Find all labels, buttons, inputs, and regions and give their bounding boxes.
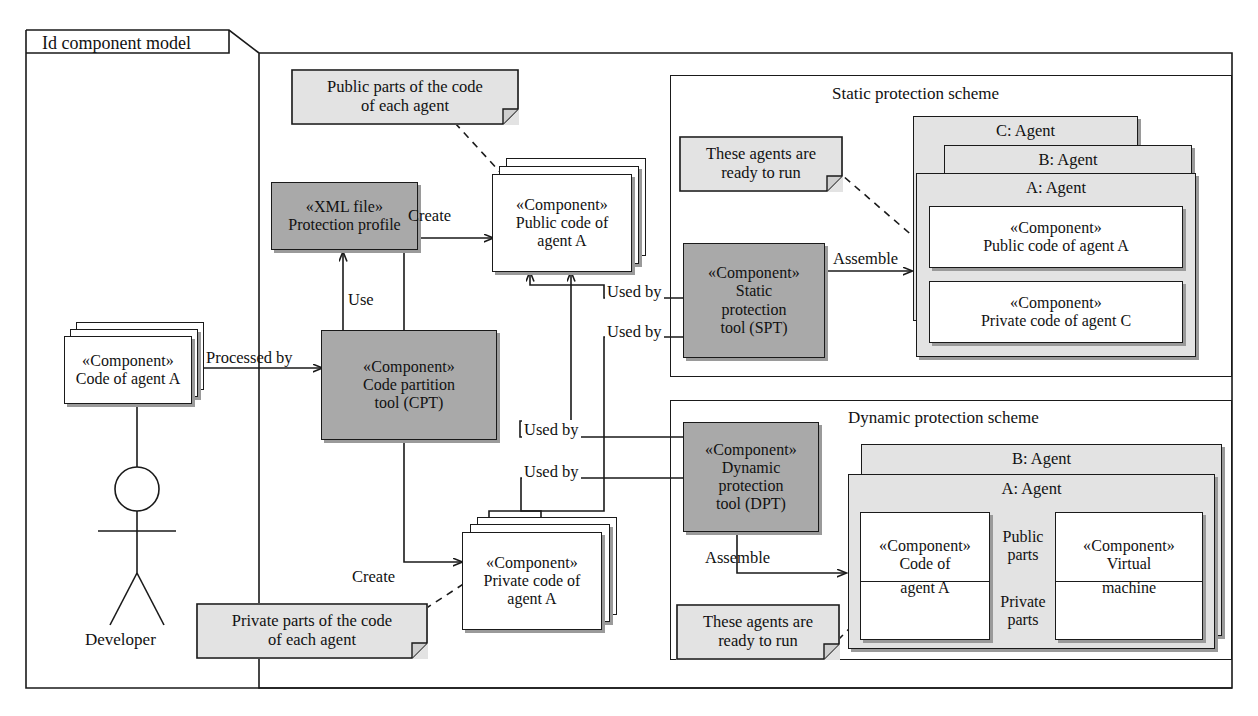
component-stereotype: «Component» <box>486 554 578 572</box>
dynamic-agent-b-label: B: Agent <box>862 449 1221 469</box>
component-name: Private code of agent C <box>981 312 1131 330</box>
component-static-public-code-of-agent-a[interactable]: «Component» Public code of agent A <box>929 206 1183 268</box>
port-private-parts-line-1: Private <box>990 593 1056 611</box>
port-private-parts: Private parts <box>990 593 1056 628</box>
note-line-1: Public parts of the code <box>327 77 483 96</box>
edge-label-used-by-4: Used by <box>522 462 581 482</box>
port-private-parts-line-2: parts <box>990 611 1056 629</box>
frame-dynamic-title: Dynamic protection scheme <box>848 408 1039 428</box>
dynamic-agent-a-label: A: Agent <box>849 479 1214 499</box>
dyn-code-divider <box>861 581 989 582</box>
component-stereotype: «Component» <box>363 358 455 376</box>
component-stereotype: «Component» <box>1010 219 1102 237</box>
edge-label-assemble-static: Assemble <box>833 249 898 269</box>
component-name-line-1: Code partition <box>363 376 455 394</box>
component-stereotype: «Component» <box>705 441 797 459</box>
component-code-of-agent-a[interactable]: «Component» Code of agent A <box>64 336 192 404</box>
port-public-parts-line-1: Public <box>992 528 1054 546</box>
component-name-line-1: Code of <box>899 555 950 573</box>
dyn-vm-divider <box>1056 581 1202 582</box>
component-private-code-of-agent-a[interactable]: «Component» Private code of agent A <box>462 532 602 630</box>
note-line-1: These agents are <box>703 612 813 631</box>
component-name-line-1: Private code of <box>484 572 581 590</box>
component-name-line-2: protection <box>722 301 787 319</box>
edge-label-used-by-2: Used by <box>605 322 664 342</box>
component-code-partition-tool[interactable]: «Component» Code partition tool (CPT) <box>321 330 497 440</box>
note-dynamic-ready[interactable]: These agents are ready to run <box>676 604 840 660</box>
component-stereotype: «Component» <box>1010 294 1102 312</box>
component-name-line-1: Virtual <box>1107 555 1151 573</box>
component-stereotype: «Component» <box>1083 537 1175 555</box>
component-dyn-code-of-agent-a[interactable]: «Component» Code of agent A <box>860 512 990 640</box>
component-name-line-2: agent A <box>900 579 949 597</box>
note-line-1: These agents are <box>706 144 816 163</box>
frame-static-title: Static protection scheme <box>832 84 999 104</box>
note-private-parts[interactable]: Private parts of the code of each agent <box>196 603 428 659</box>
static-agent-b-label: B: Agent <box>945 150 1191 170</box>
diagram-title: Id component model <box>42 33 191 54</box>
port-public-parts-line-2: parts <box>992 546 1054 564</box>
edge-label-used-by-3: Used by <box>522 420 581 440</box>
component-name-line-2: agent A <box>537 232 586 250</box>
component-dynamic-protection-tool[interactable]: «Component» Dynamic protection tool (DPT… <box>683 422 819 532</box>
note-line-2: ready to run <box>703 631 813 650</box>
component-public-code-of-agent-a[interactable]: «Component» Public code of agent A <box>492 174 632 272</box>
edge-label-create-private: Create <box>352 567 395 587</box>
note-line-1: Private parts of the code <box>232 611 392 630</box>
component-name-line-3: tool (SPT) <box>720 319 787 337</box>
note-line-2: of each agent <box>232 630 392 649</box>
actor-developer-label: Developer <box>85 630 156 650</box>
component-name-line-1: Dynamic <box>722 459 781 477</box>
static-agent-c-label: C: Agent <box>914 121 1137 141</box>
component-name-line-3: tool (DPT) <box>716 495 786 513</box>
component-stereotype: «Component» <box>82 352 174 370</box>
component-name: Protection profile <box>288 216 400 234</box>
component-name-line-2: tool (CPT) <box>375 394 444 412</box>
component-name: Code of agent A <box>76 370 180 388</box>
component-name-line-2: agent A <box>507 590 556 608</box>
component-static-protection-tool[interactable]: «Component» Static protection tool (SPT) <box>683 243 825 358</box>
component-name-line-2: protection <box>719 477 784 495</box>
edge-label-create-public: Create <box>408 206 451 226</box>
component-dyn-virtual-machine[interactable]: «Component» Virtual machine <box>1055 512 1203 640</box>
component-protection-profile[interactable]: «XML file» Protection profile <box>271 182 418 250</box>
note-public-parts[interactable]: Public parts of the code of each agent <box>291 69 519 125</box>
static-agent-a-label: A: Agent <box>917 178 1195 198</box>
note-line-2: ready to run <box>706 163 816 182</box>
component-name-line-1: Static <box>736 282 772 300</box>
component-name-line-2: machine <box>1102 579 1156 597</box>
note-line-2: of each agent <box>327 96 483 115</box>
component-stereotype: «XML file» <box>306 198 383 216</box>
component-stereotype: «Component» <box>879 537 971 555</box>
edge-label-use: Use <box>348 290 374 310</box>
component-stereotype: «Component» <box>516 196 608 214</box>
diagram-canvas: Id component model «Component» Code of a… <box>0 0 1258 716</box>
note-static-ready[interactable]: These agents are ready to run <box>679 136 843 192</box>
component-name-line-1: Public code of <box>516 214 608 232</box>
component-static-private-code-of-agent-c[interactable]: «Component» Private code of agent C <box>929 281 1183 343</box>
edge-label-processed-by: Processed by <box>206 348 293 368</box>
port-public-parts: Public parts <box>992 528 1054 563</box>
component-name: Public code of agent A <box>983 237 1129 255</box>
edge-label-used-by-1: Used by <box>605 282 664 302</box>
component-stereotype: «Component» <box>708 264 800 282</box>
edge-label-assemble-dynamic: Assemble <box>705 548 770 568</box>
